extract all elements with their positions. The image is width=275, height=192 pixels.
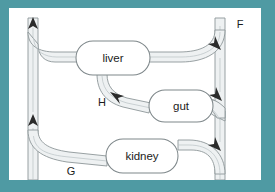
circulation-diagram: liver gut kidney F H G — [9, 8, 261, 180]
organ-liver[interactable]: liver — [76, 41, 150, 75]
figure-frame: liver gut kidney F H G — [0, 0, 275, 192]
organ-kidney-label: kidney — [125, 150, 158, 162]
organ-gut-label: gut — [173, 100, 190, 112]
flow-label-g: G — [67, 165, 76, 177]
organ-liver-label: liver — [102, 52, 123, 64]
flow-label-f: F — [237, 18, 244, 30]
organ-kidney[interactable]: kidney — [106, 139, 178, 173]
vessel-kidney-outflow — [28, 130, 107, 166]
organ-gut[interactable]: gut — [149, 90, 213, 122]
flow-label-h: H — [98, 96, 106, 108]
diagram-panel: liver gut kidney F H G — [9, 8, 261, 180]
